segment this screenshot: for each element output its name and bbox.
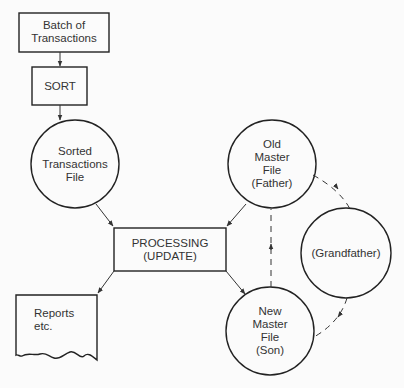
dashed-arrowhead-grandfather bbox=[335, 185, 338, 189]
arrow-old-to-processing bbox=[227, 204, 246, 226]
old-master-label: Old Master File (Father) bbox=[252, 138, 293, 190]
arrow-processing-to-reports bbox=[98, 271, 114, 293]
dashed-arrowhead-son bbox=[338, 313, 341, 317]
new-master-label: New Master File (Son) bbox=[252, 305, 287, 357]
sorted-file-label: Sorted Transactions File bbox=[42, 145, 107, 184]
sort-label: SORT bbox=[44, 80, 76, 93]
dashed-old-to-grandfather bbox=[313, 175, 350, 209]
reports-label: Reports etc. bbox=[34, 307, 74, 333]
arrow-sorted-to-processing bbox=[96, 204, 113, 226]
batch-label: Batch of Transactions bbox=[31, 19, 96, 45]
arrow-processing-to-new bbox=[226, 271, 245, 294]
processing-label: PROCESSING (UPDATE) bbox=[132, 237, 209, 263]
dashed-grandfather-to-new bbox=[314, 298, 347, 337]
grandfather-label: (Grandfather) bbox=[311, 247, 380, 260]
